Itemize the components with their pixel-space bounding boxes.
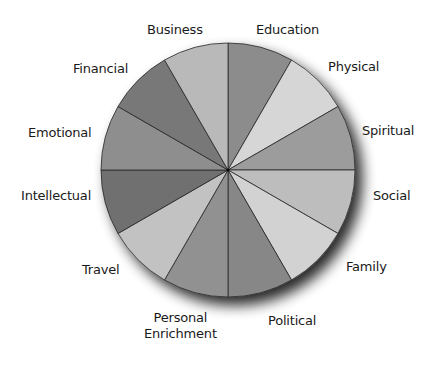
- label-travel: Travel: [82, 262, 119, 278]
- label-political: Political: [268, 313, 316, 329]
- pie-chart: [0, 0, 434, 369]
- label-financial: Financial: [73, 61, 128, 77]
- label-physical: Physical: [328, 59, 379, 75]
- label-education: Education: [256, 22, 319, 38]
- pie-slices: [101, 43, 355, 297]
- label-emotional: Emotional: [28, 125, 92, 141]
- life-areas-pie-diagram: Business Education Physical Spiritual So…: [0, 0, 434, 369]
- label-personal-line2: Enrichment: [144, 326, 217, 342]
- label-business: Business: [147, 22, 203, 38]
- label-personal-enrichment: Personal Enrichment: [144, 310, 217, 342]
- label-personal-line1: Personal: [144, 310, 217, 326]
- label-spiritual: Spiritual: [362, 123, 414, 139]
- label-family: Family: [346, 259, 387, 275]
- label-social: Social: [373, 188, 410, 204]
- pie-center-dot: [226, 168, 229, 171]
- label-intellectual: Intellectual: [21, 188, 91, 204]
